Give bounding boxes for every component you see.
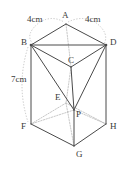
vertex-label-c: C [68, 56, 74, 65]
vertex-label-p: P [76, 110, 81, 119]
measurement-label-ab-length: 4cm [27, 15, 43, 24]
prism-diagram [0, 0, 132, 169]
edge-B-C [31, 45, 71, 67]
edge-F-G [31, 124, 74, 146]
edge-A-D [66, 24, 106, 45]
edge-C-E-hidden [66, 67, 71, 103]
vertex-dot-d [105, 44, 108, 47]
hidden-edges-group [31, 24, 106, 146]
vertex-label-a: A [62, 11, 69, 20]
vertex-label-g: G [76, 150, 83, 159]
edge-P-F-hidden [31, 110, 74, 124]
vertex-label-h: H [110, 122, 117, 131]
geometry-figure: ABCDEFGHP 4cm4cm7cm [0, 0, 132, 169]
edge-E-G-hidden [66, 103, 74, 146]
vertex-label-b: B [21, 38, 27, 47]
vertex-dot-b [30, 44, 33, 47]
edge-A-B [31, 24, 66, 45]
vertex-label-d: D [110, 38, 117, 47]
edge-G-H [74, 124, 106, 146]
vertex-label-f: F [21, 122, 26, 131]
edge-C-P [71, 67, 74, 110]
measurement-label-bf-length: 7cm [11, 75, 27, 84]
vertex-label-e: E [55, 93, 61, 102]
arc-bf-measure [22, 47, 28, 122]
edge-E-F-hidden [31, 103, 66, 124]
measurement-label-ad-length: 4cm [85, 15, 101, 24]
